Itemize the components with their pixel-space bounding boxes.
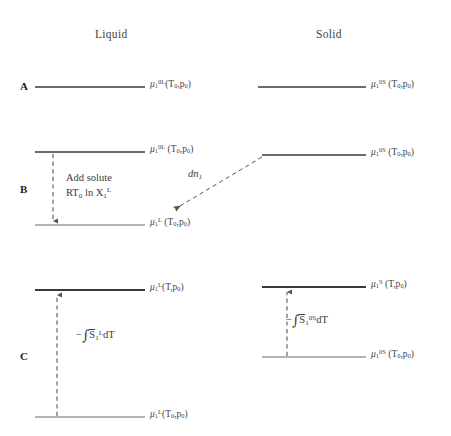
diagram-vector-layer <box>0 0 451 436</box>
dn1-transfer-arrow <box>175 157 262 209</box>
chemical-potential-diagram: Liquid Solid A B C μ10L(T0,p0) μ10S (T0,… <box>0 0 451 436</box>
row-label-b: B <box>20 183 27 195</box>
column-header-liquid: Liquid <box>95 28 127 40</box>
state-label-c-solid-upper: μ1S (T,p0) <box>371 280 407 290</box>
state-label-b-solid: μ10S (T0,p0) <box>371 148 414 158</box>
liquid-entropy-integral-label: −∫S1LdT <box>76 327 115 343</box>
add-solute-annotation: Add solute RT0 ln X1L <box>66 170 112 200</box>
state-label-c-liquid-upper: μ1L(T,p0) <box>150 283 184 293</box>
add-solute-line-2: RT0 ln X1L <box>66 185 112 200</box>
state-label-b-liquid-upper: μ10L (T0,p0) <box>150 145 193 155</box>
column-header-solid: Solid <box>316 28 342 40</box>
state-label-c-liquid-lower: μ1L(T0,p0) <box>150 410 188 420</box>
row-label-c: C <box>20 350 28 362</box>
dn1-flux-label: dn1 <box>188 168 202 179</box>
state-label-b-liquid-lower: μ1L (T0,p0) <box>150 218 190 228</box>
state-label-a-solid: μ10S (T0,p0) <box>371 80 414 90</box>
state-label-a-liquid: μ10L(T0,p0) <box>150 80 191 90</box>
row-label-a: A <box>20 80 28 92</box>
state-label-c-solid-lower: μ10S (T0,p0) <box>371 350 414 360</box>
add-solute-line-1: Add solute <box>66 170 112 185</box>
solid-entropy-integral-label: −∫S10SdT <box>286 312 328 328</box>
level-lines <box>35 87 366 417</box>
